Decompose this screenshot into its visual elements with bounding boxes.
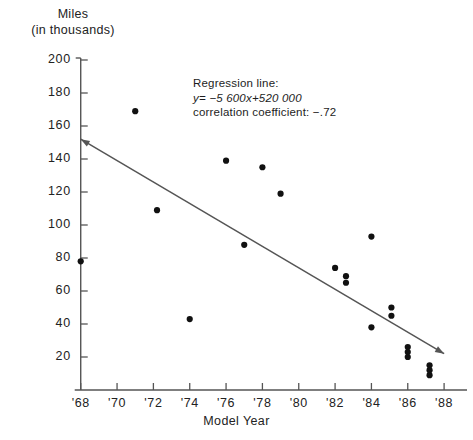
y-tick-label: 160 <box>37 118 71 132</box>
x-tick-label: '72 <box>136 396 170 410</box>
data-point <box>426 372 432 378</box>
data-point <box>78 258 84 264</box>
y-axis-title-line1: Miles <box>8 6 138 22</box>
data-point <box>405 354 411 360</box>
y-tick-label: 20 <box>37 349 71 363</box>
x-tick-label: '74 <box>173 396 207 410</box>
x-tick-label: '86 <box>391 396 425 410</box>
x-tick-label: '88 <box>427 396 461 410</box>
data-point <box>368 233 374 239</box>
x-tick-label: '76 <box>209 396 243 410</box>
data-point <box>241 242 247 248</box>
data-point <box>223 158 229 164</box>
data-point <box>388 313 394 319</box>
correlation-coefficient-text: correlation coefficient: −.72 <box>193 105 336 120</box>
x-tick-label: '82 <box>318 396 352 410</box>
regression-arrowhead-left <box>81 139 90 146</box>
y-axis-title: Miles (in thousands) <box>8 6 138 38</box>
data-point <box>388 304 394 310</box>
plot-area <box>0 0 473 440</box>
data-point <box>332 265 338 271</box>
data-point <box>259 164 265 170</box>
y-tick-label: 200 <box>37 52 71 66</box>
scatter-chart-figure: Miles (in thousands) Regression line: y=… <box>0 0 473 440</box>
x-tick-label: '70 <box>100 396 134 410</box>
regression-annotation: Regression line: y= −5 600x+520 000 corr… <box>193 76 336 120</box>
y-tick-label: 80 <box>37 250 71 264</box>
data-point <box>154 207 160 213</box>
y-tick-label: 180 <box>37 85 71 99</box>
regression-line <box>81 139 444 354</box>
x-tick-label: '68 <box>64 396 98 410</box>
data-point <box>343 273 349 279</box>
data-point <box>368 324 374 330</box>
data-point <box>277 191 283 197</box>
x-tick-label: '78 <box>245 396 279 410</box>
data-point <box>187 316 193 322</box>
y-axis-title-line2: (in thousands) <box>8 22 138 38</box>
y-tick-label: 40 <box>37 316 71 330</box>
regression-equation: y= −5 600x+520 000 <box>193 91 336 106</box>
y-tick-label: 60 <box>37 283 71 297</box>
x-axis-title: Model Year <box>0 414 473 428</box>
y-tick-label: 100 <box>37 217 71 231</box>
data-point <box>343 280 349 286</box>
data-point <box>132 108 138 114</box>
regression-label: Regression line: <box>193 76 336 91</box>
y-tick-label: 120 <box>37 184 71 198</box>
x-tick-label: '80 <box>282 396 316 410</box>
data-points-group <box>78 108 433 378</box>
regression-arrowhead-right <box>435 346 444 353</box>
y-tick-label: 140 <box>37 151 71 165</box>
x-tick-label: '84 <box>354 396 388 410</box>
regression-line-segment <box>81 139 444 354</box>
